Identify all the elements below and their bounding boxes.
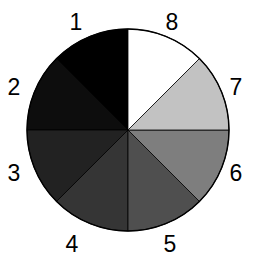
sector-label-5: 5 (160, 233, 180, 256)
sector-wheel-figure: 1 2 3 4 5 6 7 8 (0, 0, 256, 269)
pie-chart-svg (0, 0, 256, 269)
sector-label-4: 4 (62, 233, 82, 256)
sector-label-8: 8 (162, 11, 182, 34)
sector-label-1: 1 (66, 11, 86, 34)
sector-label-7: 7 (226, 76, 246, 99)
sector-label-3: 3 (4, 162, 24, 185)
sector-label-6: 6 (226, 162, 246, 185)
sector-label-2: 2 (4, 76, 24, 99)
